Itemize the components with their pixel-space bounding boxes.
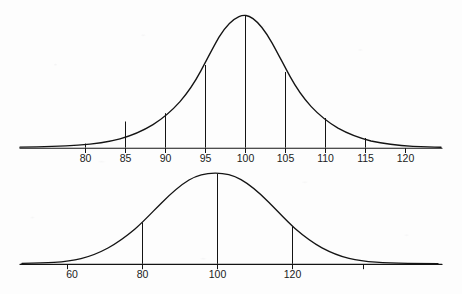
distribution-figure: 80 85 90 95 100 105 110 115 120 xyxy=(0,0,462,294)
distribution-chart-svg: 80 85 90 95 100 105 110 115 120 xyxy=(0,0,462,294)
upper-tick-label-90: 90 xyxy=(160,152,172,164)
lower-tick-label-60: 60 xyxy=(66,268,78,280)
upper-tick-label-120: 120 xyxy=(397,152,415,164)
lower-tick-label-80: 80 xyxy=(137,268,149,280)
lower-chart: 60 80 100 120 xyxy=(20,173,442,280)
lower-tick-label-100: 100 xyxy=(209,268,227,280)
lower-tick-label-120: 120 xyxy=(284,268,302,280)
upper-chart: 80 85 90 95 100 105 110 115 120 xyxy=(20,15,442,164)
upper-tick-label-80: 80 xyxy=(80,152,92,164)
upper-tick-label-100: 100 xyxy=(237,152,255,164)
upper-tick-label-115: 115 xyxy=(357,152,374,164)
upper-tick-label-110: 110 xyxy=(317,152,334,164)
upper-tick-label-95: 95 xyxy=(200,152,212,164)
upper-tick-label-85: 85 xyxy=(120,152,132,164)
upper-curve xyxy=(20,15,441,147)
lower-curve xyxy=(22,173,438,263)
upper-tick-label-105: 105 xyxy=(277,152,295,164)
